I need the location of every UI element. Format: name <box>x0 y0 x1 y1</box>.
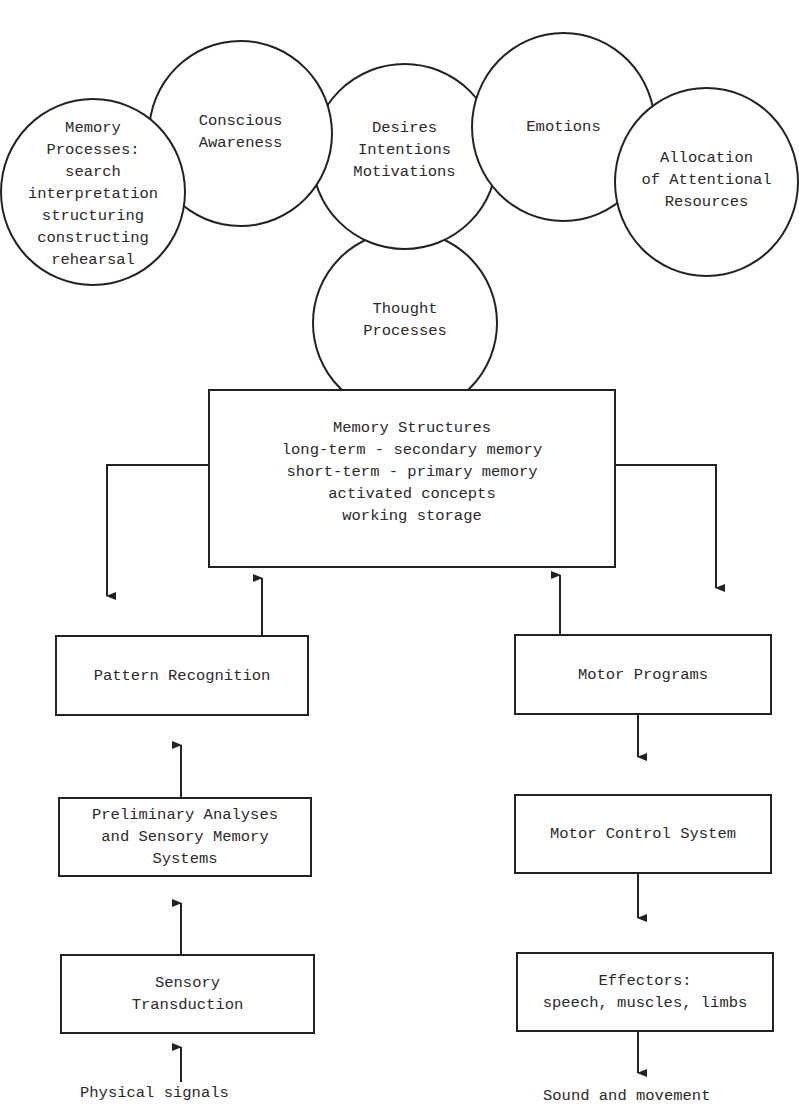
conscious-awareness-line: Awareness <box>199 132 283 154</box>
preliminary-analyses-line: Systems <box>152 848 217 870</box>
effectors-line: speech, muscles, limbs <box>543 992 748 1014</box>
allocation-line: of Attentional <box>641 169 771 191</box>
desires-line: Desires <box>372 117 437 139</box>
desires-line: Motivations <box>353 161 455 183</box>
memory-structures-line: short-term - primary memory <box>286 461 537 483</box>
sensory-transduction-line: Transduction <box>132 994 244 1016</box>
box-motor-control-system: Motor Control System <box>514 794 772 874</box>
allocation-line: Resources <box>665 191 749 213</box>
conscious-awareness-line: Conscious <box>199 110 283 132</box>
thought-processes-line: Thought <box>372 298 437 320</box>
box-sensory-transduction: Sensory Transduction <box>60 954 315 1034</box>
motor-control-label: Motor Control System <box>550 823 736 845</box>
memory-processes-line: Processes: <box>46 139 139 161</box>
emotions-line: Emotions <box>526 116 600 138</box>
circle-memory-processes: Memory Processes: search interpretation … <box>0 98 186 286</box>
memory-processes-line: rehearsal <box>51 249 135 271</box>
memory-processes-line: structuring <box>42 205 144 227</box>
desires-line: Intentions <box>358 139 451 161</box>
memory-structures-line: activated concepts <box>328 483 495 505</box>
memory-structures-line: working storage <box>342 505 482 527</box>
effectors-line: Effectors: <box>598 970 691 992</box>
arrow-memory-to-right-down <box>615 465 716 588</box>
preliminary-analyses-line: Preliminary Analyses <box>92 804 278 826</box>
box-effectors: Effectors: speech, muscles, limbs <box>516 952 774 1032</box>
preliminary-analyses-line: and Sensory Memory <box>101 826 268 848</box>
memory-structures-title: Memory Structures <box>333 417 491 439</box>
output-caption: Sound and movement <box>543 1087 710 1105</box>
input-caption: Physical signals <box>80 1084 229 1102</box>
pattern-recognition-label: Pattern Recognition <box>94 665 271 687</box>
sensory-transduction-line: Sensory <box>155 972 220 994</box>
memory-processes-line: interpretation <box>28 183 158 205</box>
box-motor-programs: Motor Programs <box>514 634 772 715</box>
thought-processes-line: Processes <box>363 320 447 342</box>
box-memory-structures: Memory Structures long-term - secondary … <box>208 389 616 568</box>
motor-programs-label: Motor Programs <box>578 664 708 686</box>
allocation-line: Allocation <box>660 147 753 169</box>
memory-processes-line: Memory <box>65 117 121 139</box>
memory-processes-line: search <box>65 161 121 183</box>
memory-structures-line: long-term - secondary memory <box>282 439 542 461</box>
arrow-memory-to-left-down <box>107 465 208 596</box>
box-preliminary-analyses: Preliminary Analyses and Sensory Memory … <box>58 797 312 877</box>
circle-desires: Desires Intentions Motivations <box>311 63 498 250</box>
memory-processes-line: constructing <box>37 227 149 249</box>
circle-allocation: Allocation of Attentional Resources <box>614 87 799 277</box>
box-pattern-recognition: Pattern Recognition <box>55 635 309 716</box>
